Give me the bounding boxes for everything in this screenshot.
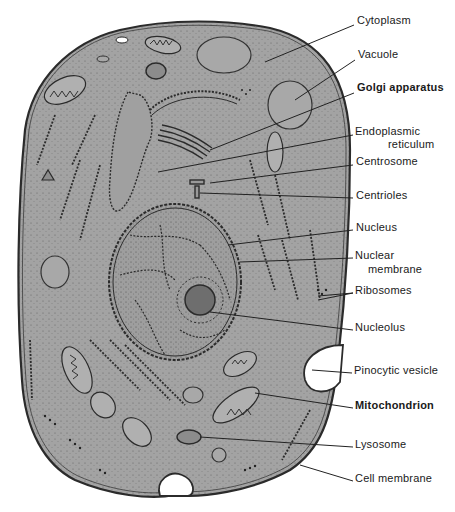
label-endoplasmic: Endoplasmic — [355, 125, 420, 137]
label-centrosome: Centrosome — [356, 155, 418, 167]
lysosome — [177, 430, 201, 444]
label-cytoplasm: Cytoplasm — [357, 14, 411, 26]
nucleolus — [185, 285, 215, 315]
label-nucleolus: Nucleolus — [355, 321, 405, 333]
label-centrioles: Centrioles — [356, 189, 408, 201]
cell-diagram: Cytoplasm Vacuole Golgi apparatus Endopl… — [0, 0, 455, 512]
label-membrane: membrane — [368, 263, 422, 275]
label-cell-membrane: Cell membrane — [355, 472, 432, 484]
label-ribosomes: Ribosomes — [355, 284, 412, 296]
nucleus — [109, 204, 241, 360]
label-nucleus: Nucleus — [356, 221, 397, 233]
label-lysosome: Lysosome — [355, 438, 406, 450]
label-pinocytic-vesicle: Pinocytic vesicle — [354, 364, 438, 376]
label-reticulum: reticulum — [388, 138, 434, 150]
label-golgi-apparatus: Golgi apparatus — [357, 81, 444, 93]
vacuole — [197, 37, 251, 73]
label-nuclear: Nuclear — [355, 249, 394, 261]
label-mitochondrion: Mitochondrion — [355, 399, 434, 411]
label-vacuole: Vacuole — [358, 48, 398, 60]
